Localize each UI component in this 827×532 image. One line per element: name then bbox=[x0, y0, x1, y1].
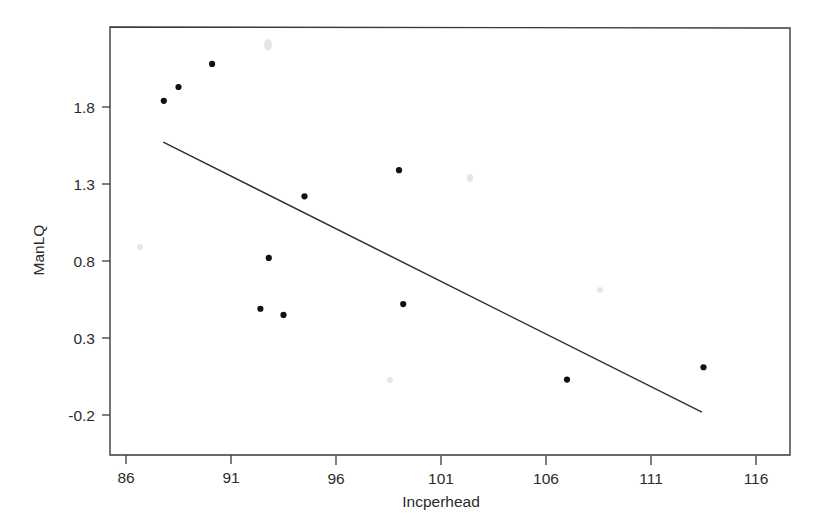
data-point bbox=[301, 193, 307, 199]
data-point bbox=[280, 312, 286, 318]
data-point bbox=[266, 255, 272, 261]
data-point bbox=[400, 301, 406, 307]
data-points-layer bbox=[161, 61, 707, 383]
x-axis-tick-labels: 86 91 96 101 106 111 116 bbox=[117, 469, 768, 487]
x-tick-label: 91 bbox=[222, 469, 239, 486]
y-axis-ticks bbox=[102, 107, 110, 415]
plot-canvas: 1.8 1.3 0.8 0.3 -0.2 ManLQ 86 91 96 101 … bbox=[0, 0, 827, 532]
y-tick-label: 1.3 bbox=[73, 176, 95, 193]
y-axis-title: ManLQ bbox=[30, 225, 47, 276]
y-tick-label: 0.3 bbox=[73, 330, 95, 347]
data-point bbox=[396, 167, 402, 173]
x-axis-ticks bbox=[126, 455, 756, 465]
x-tick-label: 116 bbox=[744, 470, 769, 487]
regression-line bbox=[164, 142, 702, 412]
x-tick-label: 101 bbox=[428, 470, 454, 487]
y-axis-tick-labels: 1.8 1.3 0.8 0.3 -0.2 bbox=[68, 99, 95, 424]
x-tick-label: 86 bbox=[117, 469, 134, 486]
plot-frame bbox=[110, 27, 790, 455]
y-tick-label: -0.2 bbox=[68, 407, 95, 424]
data-point bbox=[564, 376, 570, 382]
data-point bbox=[209, 61, 215, 67]
data-point bbox=[700, 364, 706, 370]
x-axis-title: Incperhead bbox=[402, 493, 480, 510]
data-point bbox=[175, 84, 181, 90]
y-tick-label: 1.8 bbox=[73, 99, 95, 116]
scan-artifacts bbox=[137, 39, 603, 383]
x-tick-label: 96 bbox=[327, 470, 344, 487]
x-tick-label: 111 bbox=[639, 470, 663, 487]
y-tick-label: 0.8 bbox=[73, 253, 95, 270]
data-point bbox=[161, 98, 167, 104]
scatter-plot-figure: 1.8 1.3 0.8 0.3 -0.2 ManLQ 86 91 96 101 … bbox=[0, 0, 827, 532]
x-tick-label: 106 bbox=[533, 470, 559, 487]
data-point bbox=[257, 306, 263, 312]
